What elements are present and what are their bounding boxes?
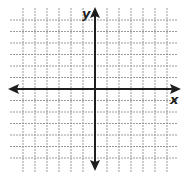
x-axis-label: x bbox=[169, 92, 179, 107]
y-axis-label: y bbox=[82, 6, 91, 21]
coordinate-plane: y x bbox=[0, 0, 185, 176]
